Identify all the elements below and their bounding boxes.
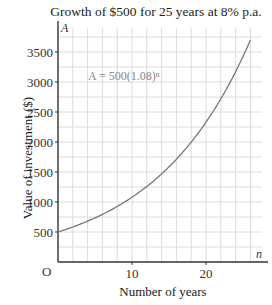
x-axis-label: Number of years	[58, 284, 268, 300]
chart-plot-area: 5001000150020002500300035001020OAnA = 50…	[0, 0, 272, 305]
x-axis-symbol: n	[256, 247, 262, 261]
x-tick-label: 10	[126, 266, 139, 281]
curve-equation-label: A = 500(1.08)ⁿ	[88, 69, 160, 83]
y-axis-symbol: A	[60, 21, 69, 35]
y-axis-label: Value of investment ($)	[20, 78, 36, 238]
x-tick-label: 20	[200, 266, 213, 281]
y-tick-label: 3500	[27, 45, 53, 60]
y-tick-label: 500	[34, 225, 54, 240]
origin-label: O	[42, 264, 51, 279]
